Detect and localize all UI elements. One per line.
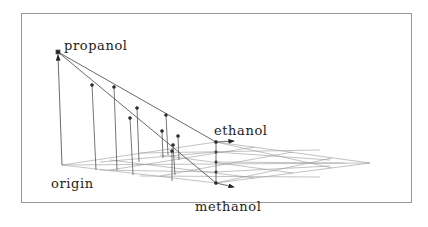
origin-label: origin: [51, 176, 94, 191]
axis-lines: [58, 52, 234, 187]
propanol-label: propanol: [64, 38, 128, 53]
ethanol-label: ethanol: [214, 123, 268, 138]
methanol-label: methanol: [195, 199, 262, 214]
composition-diagram: [0, 0, 428, 227]
